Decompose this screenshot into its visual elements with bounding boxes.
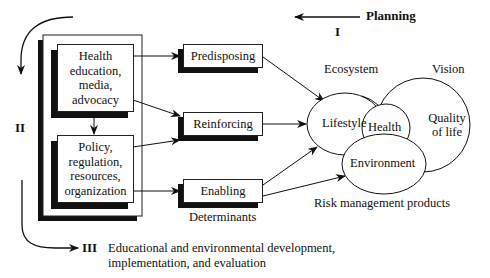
health-label: Health: [368, 120, 401, 134]
intervention-policy: Policy, regulation, resources, organizat…: [57, 135, 134, 203]
planning-label: Planning: [366, 9, 416, 23]
lifestyle-label: Lifestyle: [322, 116, 366, 130]
intervention-health-education: Health education, media, advocacy: [57, 44, 134, 112]
predisposing-label: Predisposing: [184, 45, 262, 67]
quality-label: Quality of life: [427, 111, 467, 139]
reinforcing-label: Reinforcing: [184, 113, 262, 135]
phase3-label: Educational and environmental developmen…: [108, 241, 335, 270]
phase2-numeral: II: [15, 121, 25, 135]
risk-management-label: Risk management products: [314, 196, 450, 210]
phase3-numeral: III: [82, 241, 97, 255]
enabling-label: Enabling: [184, 180, 262, 202]
ecosystem-label: Ecosystem: [324, 62, 378, 76]
determinant-predisposing: Predisposing: [183, 44, 263, 68]
determinant-reinforcing: Reinforcing: [183, 112, 263, 136]
determinants-caption: Determinants: [189, 210, 256, 224]
health-education-label: Health education, media, advocacy: [58, 45, 133, 111]
policy-label: Policy, regulation, resources, organizat…: [58, 136, 133, 202]
vision-label: Vision: [432, 62, 465, 76]
environment-label: Environment: [350, 156, 415, 170]
phase1-numeral: I: [335, 25, 340, 39]
determinant-enabling: Enabling: [183, 179, 263, 203]
